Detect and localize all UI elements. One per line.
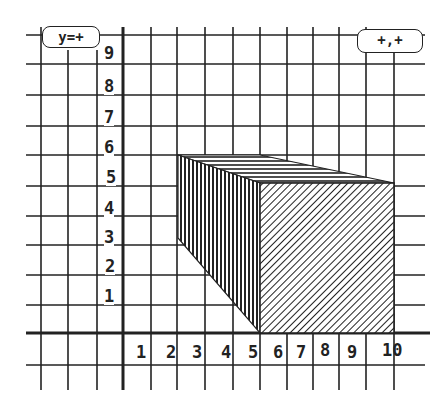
y-tick-8: 8	[104, 77, 114, 95]
x-tick-8: 8	[320, 341, 330, 359]
x-tick-2: 2	[166, 343, 176, 361]
x-tick-9: 9	[347, 343, 357, 361]
y-tick-5: 5	[106, 168, 116, 186]
x-tick-10: 10	[382, 341, 402, 359]
x-tick-1: 1	[136, 343, 146, 361]
x-tick-4: 4	[221, 343, 231, 361]
x-tick-3: 3	[192, 343, 202, 361]
y-tick-3: 3	[104, 228, 114, 246]
box-front-face	[260, 183, 394, 333]
box-side-face	[178, 155, 260, 333]
extruded-box	[178, 155, 394, 333]
y-tick-9: 9	[104, 44, 114, 62]
y-tick-6: 6	[104, 138, 114, 156]
y-tick-7: 7	[104, 108, 114, 126]
x-tick-7: 7	[296, 343, 306, 361]
y-tick-2: 2	[105, 257, 115, 275]
x-tick-6: 6	[273, 343, 283, 361]
coordinate-label: +,+	[357, 29, 423, 53]
equation-label: y=+	[42, 26, 100, 48]
y-tick-1: 1	[104, 287, 114, 305]
y-tick-4: 4	[104, 199, 114, 217]
x-tick-5: 5	[248, 343, 258, 361]
